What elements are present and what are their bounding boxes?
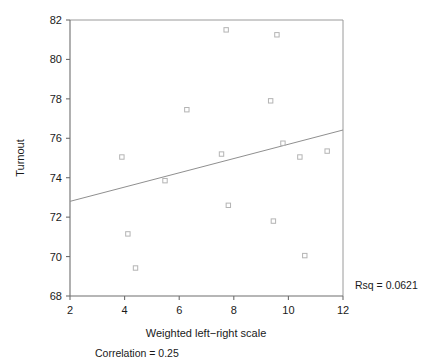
data-point-marker: [303, 253, 307, 257]
data-point-marker: [133, 266, 137, 270]
x-tick-label: 4: [122, 304, 128, 316]
rsq-annotation: Rsq = 0.0621: [355, 279, 418, 291]
x-tick-label: 12: [337, 304, 349, 316]
data-points: [120, 28, 330, 271]
x-tick-label: 10: [282, 304, 294, 316]
data-point-marker: [219, 152, 223, 156]
data-point-marker: [281, 141, 285, 145]
y-tick-label: 68: [50, 290, 62, 302]
data-point-marker: [268, 99, 272, 103]
x-tick-label: 6: [176, 304, 182, 316]
x-tick-label: 8: [231, 304, 237, 316]
data-point-marker: [224, 28, 228, 32]
x-axis-title: Weighted left−right scale: [146, 327, 267, 339]
y-tick-label: 82: [50, 14, 62, 26]
fit-line-segment: [70, 130, 343, 201]
regression-line: [70, 130, 343, 201]
y-tick-label: 78: [50, 93, 62, 105]
x-axis-ticks: 24681012: [67, 296, 349, 316]
data-point-marker: [120, 155, 124, 159]
y-axis-title: Turnout: [14, 139, 26, 177]
scatter-plot-figure: 8280787674727068 24681012 Turnout Weight…: [0, 0, 439, 364]
y-tick-label: 74: [50, 172, 62, 184]
data-point-marker: [325, 149, 329, 153]
y-tick-label: 80: [50, 53, 62, 65]
data-point-marker: [275, 33, 279, 37]
data-point-marker: [126, 232, 130, 236]
correlation-annotation: Correlation = 0.25: [95, 347, 179, 359]
plot-canvas: 8280787674727068 24681012 Turnout Weight…: [0, 0, 439, 364]
y-axis-ticks: 8280787674727068: [50, 14, 70, 302]
x-tick-label: 2: [67, 304, 73, 316]
y-tick-label: 76: [50, 132, 62, 144]
data-point-marker: [298, 155, 302, 159]
data-point-marker: [226, 203, 230, 207]
data-point-marker: [271, 219, 275, 223]
y-tick-label: 70: [50, 251, 62, 263]
y-tick-label: 72: [50, 211, 62, 223]
data-point-marker: [163, 178, 167, 182]
data-point-marker: [185, 108, 189, 112]
